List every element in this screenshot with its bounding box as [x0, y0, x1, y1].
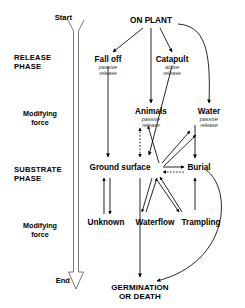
node-germination-or-death: GERMINATION OR DEATH	[111, 283, 168, 301]
terminal-line2: OR DEATH	[119, 292, 161, 301]
node-burial: Burial	[187, 164, 210, 173]
node-catapult-label: Catapult	[156, 55, 189, 64]
edge-ground-trampling	[157, 177, 182, 212]
node-fall-off-sub2: release	[95, 70, 122, 76]
phase-substrate: SUBSTRATE PHASE	[14, 165, 62, 184]
modifier-lower-line2: force	[31, 230, 49, 239]
node-catapult-sub2: release	[156, 70, 189, 76]
edge-ground-waterflow	[142, 178, 157, 212]
node-trampling: Trampling	[181, 219, 220, 228]
node-water-label: Water	[198, 107, 220, 116]
modifier-lower: Modifying force	[23, 222, 57, 239]
modifier-upper-line2: force	[31, 118, 49, 127]
node-animals: Animals passive release	[135, 107, 167, 129]
node-unknown: Unknown	[88, 219, 125, 228]
modifier-upper-line1: Modifying	[23, 109, 57, 118]
node-animals-label: Animals	[135, 107, 167, 116]
time-axis-arrow	[68, 20, 84, 289]
node-water: Water passive release	[198, 107, 220, 129]
node-catapult: Catapult active release	[156, 55, 189, 77]
diagram-edges-layer	[0, 0, 245, 308]
phase-release-line2: PHASE	[14, 62, 41, 71]
node-fall-off: Fall off passive release	[95, 55, 122, 77]
timeline-start-label: Start	[55, 14, 72, 22]
timeline-end-label: End	[56, 277, 70, 285]
phase-substrate-line1: SUBSTRATE	[14, 165, 62, 174]
diagram-canvas: Start End RELEASE PHASE SUBSTRATE PHASE …	[0, 0, 245, 308]
phase-substrate-line2: PHASE	[14, 174, 41, 183]
node-on-plant: ON PLANT	[130, 17, 172, 26]
node-water-sub2: release	[198, 122, 220, 128]
modifier-lower-line1: Modifying	[23, 221, 57, 230]
node-waterflow: Waterflow	[136, 219, 175, 228]
node-fall-off-label: Fall off	[95, 55, 122, 64]
phase-release: RELEASE PHASE	[14, 53, 51, 72]
modifier-upper: Modifying force	[23, 110, 57, 127]
edge-ground-unknown	[104, 178, 110, 214]
node-ground-surface: Ground surface	[90, 164, 151, 173]
edge-ground-burial	[163, 167, 184, 172]
terminal-line1: GERMINATION	[111, 283, 168, 292]
phase-release-line1: RELEASE	[14, 53, 51, 62]
node-animals-sub2: release	[135, 122, 167, 128]
